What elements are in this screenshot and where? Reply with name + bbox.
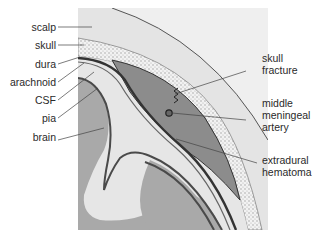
label-scalp: scalp (31, 21, 56, 33)
label-arachnoid: arachnoid (10, 76, 56, 88)
label-extradural-hematoma: extradural hematoma (262, 154, 312, 178)
label-mma-line2: meningeal (262, 109, 310, 121)
label-eh-line2: hematoma (262, 166, 312, 178)
label-mma-line3: artery (262, 121, 310, 133)
label-eh-line1: extradural (262, 154, 312, 166)
label-csf: CSF (35, 94, 56, 106)
label-dura: dura (35, 58, 56, 70)
label-brain: brain (33, 131, 56, 143)
label-skull-fracture-line1: skull (262, 52, 298, 64)
label-skull-fracture: skull fracture (262, 52, 298, 76)
label-middle-meningeal-artery: middle meningeal artery (262, 97, 310, 133)
label-skull-fracture-line2: fracture (262, 64, 298, 76)
label-skull: skull (35, 39, 56, 51)
middle-meningeal-artery (166, 110, 172, 116)
label-pia: pia (42, 112, 56, 124)
label-mma-line1: middle (262, 97, 310, 109)
